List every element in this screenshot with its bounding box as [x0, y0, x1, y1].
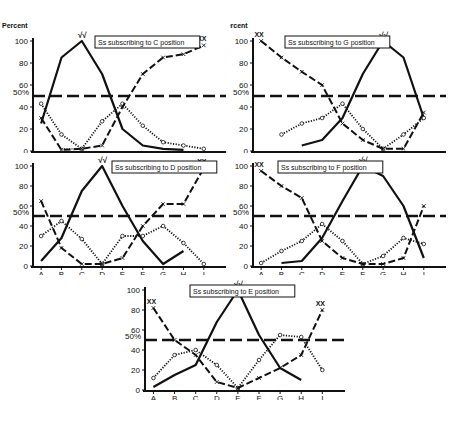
- line-chart: 02040608010050%ABCDEFGHI√√XXSs subscribi…: [0, 150, 232, 275]
- x-tick-label: C: [79, 270, 85, 275]
- x-tick-label: F: [140, 270, 145, 275]
- xx-marker: XX: [254, 161, 264, 168]
- y-tick-label: 100: [127, 286, 141, 295]
- chart-title: Ss subscribing to C position: [98, 39, 184, 47]
- x-tick-label: I: [423, 270, 425, 275]
- y-tick-label: 20: [239, 125, 248, 134]
- x-tick-label: F: [360, 270, 365, 275]
- chart-panel-e: 02040608010050%ABCDEFGHI√√XXXXSs subscri…: [120, 280, 360, 404]
- series-dotted-circles: [282, 104, 424, 149]
- line-chart: Percent02040608010050%ABCDEFGHI√√XXSs su…: [230, 8, 463, 153]
- y-tick-label: 0: [244, 262, 249, 271]
- x-tick-label: H: [401, 270, 407, 275]
- chart-title-box: Ss subscribing to D position: [112, 161, 217, 173]
- peak-marker: √√: [77, 31, 86, 40]
- chart-panel-f: 02040608010050%ABCDEFGHI√√XXSs subscribi…: [230, 150, 463, 279]
- chart-panel-d: 02040608010050%ABCDEFGHI√√XXSs subscribi…: [0, 150, 232, 279]
- x-tick-label: F: [257, 394, 262, 400]
- x-tick-label: E: [120, 270, 125, 275]
- x-tick-label: G: [160, 270, 166, 275]
- line-chart: 02040608010050%ABCDEFGHI√√XXXXSs subscri…: [120, 280, 360, 400]
- chart-title: Ss subscribing to E position: [193, 288, 279, 296]
- chart-title-box: Ss subscribing to E position: [190, 285, 295, 297]
- y-tick-label: 80: [19, 59, 28, 68]
- x-tick-label: B: [59, 270, 64, 275]
- chart-title: Ss subscribing to D position: [115, 164, 201, 172]
- x-tick-label: A: [151, 394, 157, 400]
- x-tick-label: E: [340, 270, 345, 275]
- y-tick-label: 20: [19, 125, 28, 134]
- x-tick-label: A: [258, 270, 264, 275]
- xx-marker: XX: [254, 31, 264, 38]
- y-tick-label: 80: [131, 306, 140, 315]
- chart-panel-g: Percent02040608010050%ABCDEFGHI√√XXSs su…: [230, 8, 463, 157]
- y-tick-label: 0: [136, 386, 141, 395]
- x-tick-label: G: [380, 270, 386, 275]
- y-tick-label: 40: [131, 346, 140, 355]
- xx-marker: XX: [147, 298, 157, 305]
- series-dashed-x: [41, 45, 204, 149]
- series-solid: [282, 166, 424, 263]
- y-tick-label: 100: [235, 162, 249, 171]
- y-tick-label: 80: [239, 59, 248, 68]
- y-tick-label: 40: [19, 103, 28, 112]
- x-tick-label: H: [181, 270, 187, 275]
- chart-title-box: Ss subscribing to C position: [95, 36, 200, 48]
- y-tick-label: 20: [19, 242, 28, 251]
- y-tick-label: 20: [239, 242, 248, 251]
- xx-marker: XX: [316, 300, 326, 307]
- line-chart: Percent02040608010050%ABCDEFGHI√√XXSs su…: [0, 8, 232, 153]
- peak-marker: √√: [98, 156, 107, 165]
- fifty-percent-label: 50%: [233, 88, 249, 97]
- series-dashed-x: [261, 171, 424, 264]
- y-tick-label: 100: [235, 37, 249, 46]
- y-tick-label: 0: [24, 262, 29, 271]
- x-tick-label: D: [214, 394, 220, 400]
- x-tick-label: B: [279, 270, 284, 275]
- y-axis-title: Percent: [230, 22, 248, 29]
- y-tick-label: 100: [15, 37, 29, 46]
- chart-title: Ss subscribing to F position: [281, 164, 367, 172]
- fifty-percent-label: 50%: [125, 332, 141, 341]
- fifty-percent-label: 50%: [13, 88, 29, 97]
- x-tick-label: H: [298, 394, 304, 400]
- y-tick-label: 20: [131, 366, 140, 375]
- y-tick-label: 40: [239, 103, 248, 112]
- x-tick-label: D: [99, 270, 105, 275]
- x-tick-label: I: [321, 394, 323, 400]
- chart-panel-c: Percent02040608010050%ABCDEFGHI√√XXSs su…: [0, 8, 232, 157]
- x-tick-label: G: [277, 394, 283, 400]
- chart-title-box: Ss subscribing to F position: [278, 161, 383, 173]
- y-tick-label: 100: [15, 162, 29, 171]
- chart-title-box: Ss subscribing to G position: [285, 36, 390, 48]
- fifty-percent-label: 50%: [233, 208, 249, 217]
- x-tick-label: E: [235, 394, 240, 400]
- x-tick-label: B: [172, 394, 177, 400]
- x-tick-label: A: [38, 270, 44, 275]
- series-dashed-x: [153, 308, 322, 388]
- x-tick-label: C: [193, 394, 199, 400]
- y-tick-label: 40: [239, 222, 248, 231]
- x-tick-label: D: [319, 270, 325, 275]
- x-tick-label: C: [299, 270, 305, 275]
- y-axis-title: Percent: [2, 22, 28, 29]
- y-tick-label: 80: [19, 182, 28, 191]
- y-tick-label: 40: [19, 222, 28, 231]
- fifty-percent-label: 50%: [13, 208, 29, 217]
- y-tick-label: 80: [239, 182, 248, 191]
- x-tick-label: I: [203, 270, 205, 275]
- line-chart: 02040608010050%ABCDEFGHI√√XXSs subscribi…: [230, 150, 463, 275]
- chart-title: Ss subscribing to G position: [288, 39, 375, 47]
